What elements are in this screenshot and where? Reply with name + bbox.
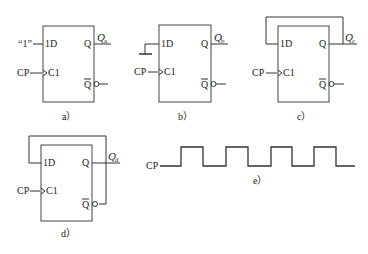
caption-d: d） [61, 228, 76, 239]
figure-e: CP e） [146, 147, 355, 186]
cp-label-c: CP [252, 67, 265, 78]
clock-edge-icon-d [41, 188, 45, 194]
qbar-pin-label-d: Q [82, 199, 90, 210]
inverter-bubble-b [211, 82, 216, 87]
cp-label-d: CP [17, 185, 30, 196]
d-input-wire-b [145, 44, 159, 54]
caption-a: a） [62, 111, 76, 122]
clk-pin-label-a: C1 [48, 67, 60, 78]
flip-flop-box-b [159, 25, 211, 102]
d-pin-label-b: 1D [161, 38, 173, 49]
inverter-bubble-a [94, 82, 99, 87]
inverter-bubble-c [329, 82, 334, 87]
q-pin-label-b: Q [201, 38, 209, 49]
constant-one-label: “1” [18, 38, 32, 49]
cp-label-e: CP [146, 160, 159, 171]
clk-pin-label-b: C1 [164, 66, 176, 77]
output-sub-b: b [221, 37, 225, 45]
d-pin-label-c: 1D [280, 38, 292, 49]
q-pin-label-d: Q [82, 157, 90, 168]
figure-c: 1D CP C1 Q Q c Q c） [252, 17, 357, 122]
d-pin-label-a: 1D [45, 38, 57, 49]
figure-b: 1D CP C1 Q Q b Q b） [134, 25, 228, 122]
d-pin-label-d: 1D [43, 157, 55, 168]
clock-edge-icon-a [43, 70, 47, 76]
figure-d: 1D CP C1 Q Q d Q d） [17, 136, 120, 239]
cp-label-a: CP [17, 67, 30, 78]
output-sub-d: d [115, 156, 119, 164]
output-sub-c: c [352, 37, 355, 45]
q-pin-label-a: Q [84, 38, 92, 49]
clock-edge-icon-b [159, 69, 163, 75]
qbar-pin-label-a: Q [84, 79, 92, 90]
clock-waveform [160, 147, 355, 166]
caption-b: b） [178, 111, 193, 122]
flip-flop-diagram: “1” 1D CP C1 Q Q a Q a） 1D CP C1 Q Q b Q… [0, 0, 368, 254]
qbar-pin-label-c: Q [319, 79, 327, 90]
caption-e: e） [253, 175, 267, 186]
qbar-pin-label-b: Q [201, 79, 209, 90]
figure-a: “1” 1D CP C1 Q Q a Q a） [17, 26, 111, 122]
cp-label-b: CP [134, 66, 147, 77]
inverter-bubble-d [93, 202, 98, 207]
clk-pin-label-c: C1 [283, 67, 295, 78]
clock-edge-icon-c [278, 70, 282, 76]
clk-pin-label-d: C1 [46, 185, 58, 196]
caption-c: c） [297, 111, 311, 122]
q-pin-label-c: Q [319, 38, 327, 49]
